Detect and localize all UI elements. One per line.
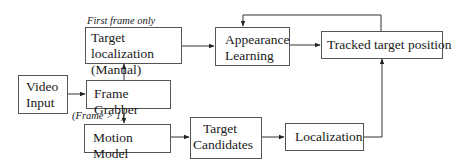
video-input-line1: Video	[26, 79, 67, 95]
localization-box: Localization	[285, 123, 364, 151]
tracked-target-position-label: Tracked target position	[327, 37, 442, 53]
video-input-line2: Input	[26, 95, 67, 111]
target-localization-line1: Target localization	[91, 30, 181, 62]
motion-model-box: Motion Model	[84, 124, 171, 153]
arrow-localization-to-tracked	[363, 59, 382, 137]
localization-label: Localization	[295, 129, 363, 145]
motion-model-label: Motion Model	[93, 130, 170, 162]
appearance-learning-line2: Learning	[225, 48, 289, 64]
frame-grabber-box: Frame Grabber	[86, 80, 171, 109]
target-localization-line2: (Manual)	[91, 62, 181, 78]
target-localization-manual-box: Target localization (Manual)	[85, 27, 182, 64]
appearance-learning-line1: Appearance	[225, 32, 289, 48]
frame-gt-1-label: (Frame > 1)	[72, 110, 125, 121]
target-candidates-line1: Target	[193, 121, 261, 137]
tracked-target-position-box: Tracked target position	[321, 31, 443, 59]
video-input-box: Video Input	[18, 75, 68, 114]
first-frame-only-label: First frame only	[87, 15, 155, 26]
target-candidates-box: Target Candidates	[190, 117, 262, 159]
appearance-learning-box: Appearance Learning	[215, 27, 290, 66]
target-candidates-line2: Candidates	[193, 137, 261, 153]
